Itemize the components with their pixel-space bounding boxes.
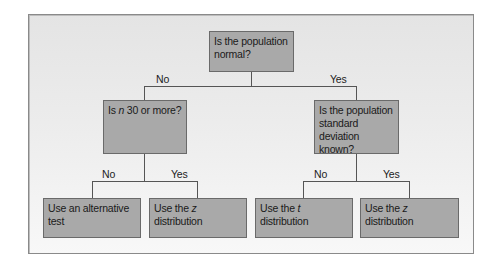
branch-label-yes: Yes xyxy=(330,73,347,85)
leaf-z-distribution: Use the z distribution xyxy=(149,198,247,238)
branch-label-no: No xyxy=(156,73,169,85)
std-dev-question-node: Is the population standard deviation kno… xyxy=(314,100,399,154)
leaf-variable: z xyxy=(403,202,408,214)
branch-label-no: No xyxy=(102,168,115,180)
leaf-z-distribution: Use the z distribution xyxy=(360,198,459,238)
connector-left-drop-yes xyxy=(197,181,198,198)
std-dev-question-text: Is the population standard deviation kno… xyxy=(319,104,393,155)
connector-right-horizontal xyxy=(303,181,410,182)
connector-left-vertical xyxy=(144,154,145,181)
connector-left-horizontal xyxy=(92,181,198,182)
leaf-text-post: distribution xyxy=(260,215,308,227)
leaf-alternative-test: Use an alternative test xyxy=(43,198,141,238)
leaf-variable: z xyxy=(192,202,197,214)
leaf-text-pre: Use the xyxy=(260,202,298,214)
leaf-text-pre: Use the xyxy=(365,202,403,214)
connector-right-drop-yes xyxy=(409,181,410,198)
root-question-text: Is the population normal? xyxy=(214,35,288,60)
connector-root-horizontal xyxy=(144,86,357,87)
question-text-pre: Is xyxy=(108,104,119,116)
connector-left-drop-no xyxy=(92,181,93,198)
leaf-text-post: distribution xyxy=(365,215,413,227)
branch-label-yes: Yes xyxy=(171,168,188,180)
connector-right-drop-no xyxy=(303,181,304,198)
connector-root-right-drop xyxy=(356,86,357,100)
connector-root-vertical xyxy=(251,72,252,87)
connector-right-vertical xyxy=(356,154,357,181)
question-text-post: 30 or more? xyxy=(124,104,181,116)
sample-size-question-node: Is n 30 or more? xyxy=(103,100,187,154)
leaf-variable: t xyxy=(298,202,301,214)
leaf-text-post: distribution xyxy=(154,215,202,227)
connector-root-left-drop xyxy=(144,86,145,100)
root-question-node: Is the population normal? xyxy=(209,31,294,72)
branch-label-yes: Yes xyxy=(383,168,400,180)
leaf-text: Use an alternative test xyxy=(48,202,129,227)
leaf-t-distribution: Use the t distribution xyxy=(255,198,353,238)
leaf-text-pre: Use the xyxy=(154,202,192,214)
branch-label-no: No xyxy=(314,168,327,180)
